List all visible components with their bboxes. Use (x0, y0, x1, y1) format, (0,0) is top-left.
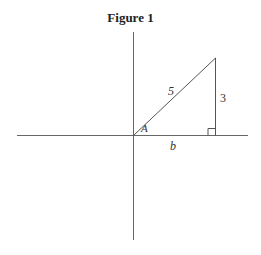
right-angle-marker (208, 129, 216, 136)
angle-label: A (141, 122, 148, 134)
opposite-label: 3 (220, 91, 226, 106)
coordinate-diagram (0, 0, 261, 255)
hypotenuse-label: 5 (168, 84, 174, 99)
adjacent-label: b (170, 139, 176, 154)
